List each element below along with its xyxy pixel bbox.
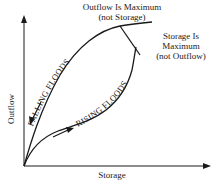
rising-direction-arrow — [53, 130, 68, 137]
rising-arrowhead-icon — [66, 127, 74, 133]
y-axis-arrowhead-icon — [21, 15, 27, 23]
storage-max-line2: Maximum — [150, 41, 212, 51]
peak-connector-line — [120, 26, 140, 55]
outflow-maximum-annotation: Outflow Is Maximum (not Storage) — [72, 2, 172, 22]
diagram-svg: FALLING FLOODS RISING FLOODS — [0, 0, 215, 184]
storage-max-line1: Storage Is — [150, 31, 212, 41]
rising-floods-label: RISING FLOODS — [74, 79, 130, 129]
outflow-max-line1: Outflow Is Maximum — [72, 2, 172, 12]
diagram-canvas: FALLING FLOODS RISING FLOODS Outflow Is … — [0, 0, 215, 184]
x-axis-arrowhead-icon — [203, 163, 211, 169]
x-axis-label: Storage — [92, 170, 132, 180]
falling-floods-label: FALLING FLOODS — [25, 56, 71, 127]
y-axis-label: Outflow — [6, 94, 16, 124]
outflow-max-line2: (not Storage) — [72, 12, 172, 22]
storage-max-line3: (not Outflow) — [150, 51, 212, 61]
storage-maximum-annotation: Storage Is Maximum (not Outflow) — [150, 31, 212, 61]
